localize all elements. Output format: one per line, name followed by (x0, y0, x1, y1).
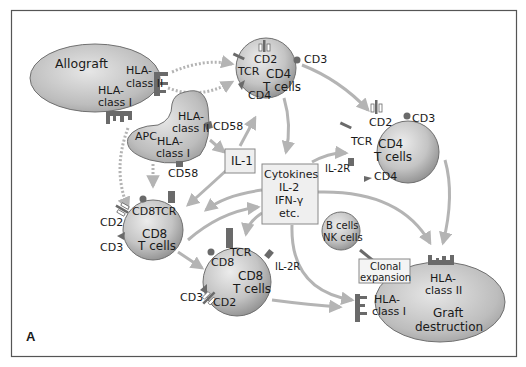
cytokines-label-3: IFN-γ (275, 194, 304, 207)
bnk-label-1: B cells (326, 220, 358, 231)
cd4top-tcr-label: TCR (237, 65, 260, 78)
apc-hla2-label-2: class II (172, 122, 209, 135)
graft-label-2: destruction (415, 320, 483, 334)
cd4right-cell-label-1: CD4 (378, 137, 403, 151)
cd8left-cd8-label: CD8 (132, 205, 155, 218)
clonal-label-2: expansion (360, 272, 411, 283)
cd4right-cd2-label: CD2 (369, 116, 392, 129)
cd4top-cd4-label: CD4 (248, 89, 271, 102)
cd4right-cell-label-2: T cells (373, 150, 412, 164)
apc-hla1-label-2: class I (156, 147, 190, 160)
cd3-receptor-icon (404, 113, 411, 120)
cd8left-cd2-label: CD2 (100, 216, 123, 229)
cd4right-tcr-label: TCR (350, 135, 373, 148)
cytokines-label-2: IL-2 (279, 181, 299, 194)
clonal-expansion-box: Clonal expansion (359, 259, 411, 283)
cd4right-il2r-label: IL-2R (325, 163, 350, 174)
cd8-receptor-icon (208, 249, 215, 256)
panel-label: A (26, 329, 36, 344)
il1-label: IL-1 (231, 154, 253, 168)
graft-hla1-label-2: class I (372, 305, 406, 318)
cd4top-cell-label-1: CD4 (266, 67, 291, 81)
cd8left-tcr-label: TCR (154, 205, 177, 218)
cd4top-cd3-label: CD3 (304, 53, 327, 66)
apc-label: APC (135, 130, 157, 143)
bnk-label-2: NK cells (323, 232, 363, 243)
cytokines-label-4: etc. (279, 207, 300, 220)
allograft-hla1-label-2: class I (98, 96, 132, 109)
tcr-receptor-icon (226, 228, 233, 248)
allograft-hla2-label-1: HLA- (126, 64, 152, 77)
cd8bottom-cell-label-1: CD8 (238, 269, 263, 283)
apc-cd58-label-2: CD58 (168, 167, 198, 180)
cd3-receptor-icon (294, 57, 301, 64)
allograft-hla2-label-2: class II (126, 77, 163, 90)
cd8-receptor-icon (140, 196, 147, 203)
tcr-receptor-icon (168, 191, 175, 203)
cd8bottom-cd2-label: CD2 (213, 296, 236, 309)
cd4right-cd3-label: CD3 (412, 112, 435, 125)
cd8bottom-cd8-label: CD8 (211, 256, 234, 269)
il1-box: IL-1 (225, 149, 255, 173)
graft-label-1: Graft (433, 306, 464, 320)
cd4right-cd4-label: CD4 (374, 170, 397, 183)
clonal-label-1: Clonal (370, 261, 401, 272)
cd8bottom-cd3-label: CD3 (180, 291, 203, 304)
allograft-label: Allograft (55, 56, 108, 71)
cytokines-box: Cytokines IL-2 IFN-γ etc. (262, 164, 318, 224)
cd8bottom-il2r-label: IL-2R (275, 261, 300, 272)
cd8bottom-cell-label-2: T cells (232, 282, 271, 296)
apc-cd58-label-1: CD58 (213, 120, 243, 133)
cd8left-cd3-label: CD3 (100, 241, 123, 254)
cd8left-cell-label-2: T cells (137, 239, 176, 253)
graft-hla2-label-2: class II (425, 284, 462, 297)
cytokines-label-1: Cytokines (264, 168, 318, 181)
diagram-canvas: Allograft HLA- class II HLA- class I APC… (0, 0, 526, 367)
